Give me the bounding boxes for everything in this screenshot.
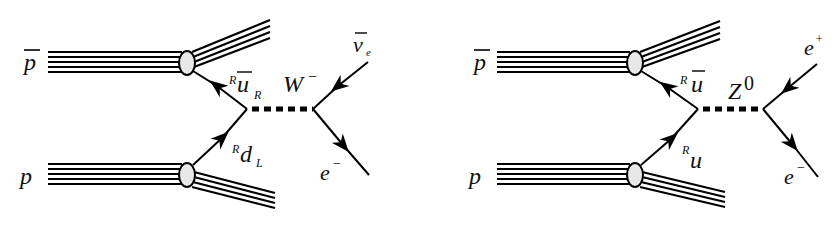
positron-line <box>788 64 817 88</box>
svg-text:u: u <box>237 71 249 97</box>
svg-text:R: R <box>228 73 237 87</box>
svg-text:R: R <box>681 143 690 157</box>
svg-text:p: p <box>472 49 486 75</box>
svg-text:Z: Z <box>728 78 742 104</box>
electron-antineutrino-label: ν e <box>353 32 371 58</box>
svg-text:R: R <box>231 142 240 156</box>
antiproton-label: p <box>22 49 40 75</box>
svg-text:L: L <box>255 156 263 170</box>
svg-text:0: 0 <box>744 72 754 94</box>
antiproton-beam <box>48 52 182 72</box>
positron-label: e + <box>804 32 823 60</box>
down-quark-label: R d L <box>231 141 263 170</box>
svg-text:d: d <box>240 141 253 167</box>
proton-vertex-blob <box>627 163 643 187</box>
z-production-diagram: p p R u R u Z 0 e + e − <box>467 21 823 207</box>
electron-line <box>763 109 792 144</box>
electron-label: e − <box>784 160 805 189</box>
w-production-diagram: p p R u R R d L W − ν e e − <box>18 20 371 208</box>
proton-remnants <box>192 172 275 208</box>
antiproton-vertex-blob <box>627 51 643 75</box>
svg-text:−: − <box>796 160 805 175</box>
antiproton-vertex-blob <box>179 51 195 75</box>
svg-text:e: e <box>366 46 371 58</box>
svg-text:p: p <box>22 49 36 75</box>
feynman-diagrams: p p R u R R d L W − ν e e − <box>0 0 840 227</box>
anti-up-quark-label: R u <box>679 71 705 97</box>
antineutrino-line <box>338 62 368 86</box>
antiproton-label: p <box>472 49 490 75</box>
svg-text:e: e <box>804 35 814 60</box>
antiproton-remnants <box>192 20 270 67</box>
svg-text:u: u <box>690 147 702 173</box>
antiproton-beam <box>497 52 630 72</box>
svg-text:e: e <box>320 160 330 185</box>
z-boson-label: Z 0 <box>728 72 754 104</box>
quark-line <box>641 139 671 165</box>
svg-text:R: R <box>253 88 262 102</box>
w-boson-label: W − <box>283 68 318 97</box>
svg-text:R: R <box>679 73 688 87</box>
electron-line <box>313 109 343 145</box>
proton-beam <box>497 164 630 184</box>
proton-label: p <box>18 163 32 189</box>
proton-remnants <box>640 172 725 207</box>
up-quark-label: R u <box>681 143 702 173</box>
svg-text:−: − <box>307 68 318 85</box>
electron-label: e − <box>320 156 341 185</box>
svg-text:ν: ν <box>353 32 363 57</box>
svg-text:W: W <box>283 71 305 97</box>
svg-text:+: + <box>815 32 823 46</box>
proton-vertex-blob <box>179 163 195 187</box>
antiproton-remnants <box>640 21 720 67</box>
proton-beam <box>48 164 182 184</box>
proton-label: p <box>467 163 481 189</box>
svg-text:u: u <box>691 71 703 97</box>
quark-line <box>193 138 222 165</box>
svg-text:−: − <box>332 156 341 171</box>
svg-text:e: e <box>784 164 794 189</box>
